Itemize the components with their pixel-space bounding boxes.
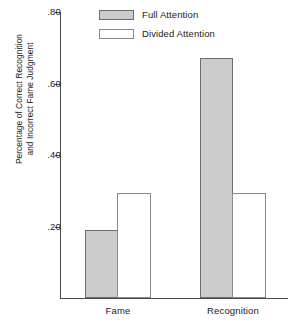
- legend-swatch-full-attention: [99, 10, 134, 20]
- x-tick-label-recognition: Recognition: [178, 305, 288, 316]
- bar-recognition-divided-attention: [232, 193, 266, 298]
- x-tick-label-fame: Fame: [63, 305, 173, 316]
- y-tick-label-60: .60: [9, 79, 61, 89]
- y-axis-label-line-2: and Incorrect Fame Judgment: [25, 0, 36, 199]
- bar-fame-full-attention: [85, 230, 118, 298]
- bar-chart: Percentage of Correct Recognition and In…: [0, 0, 297, 325]
- y-tick-label-40: .40: [9, 150, 61, 160]
- legend-label-divided-attention: Divided Attention: [142, 29, 215, 39]
- y-tick-label-20: .20: [9, 222, 61, 232]
- legend-label-full-attention: Full Attention: [142, 10, 198, 20]
- legend-item-full-attention: Full Attention: [99, 8, 215, 22]
- legend: Full Attention Divided Attention: [99, 8, 215, 46]
- bar-fame-divided-attention: [117, 193, 151, 298]
- y-tick-label-80: .80: [9, 7, 61, 17]
- legend-item-divided-attention: Divided Attention: [99, 27, 215, 41]
- bar-recognition-full-attention: [200, 58, 233, 298]
- y-axis-label: Percentage of Correct Recognition and In…: [14, 0, 36, 199]
- legend-swatch-divided-attention: [99, 29, 134, 39]
- y-axis-label-line-1: Percentage of Correct Recognition: [14, 34, 24, 164]
- plot-area: [61, 12, 288, 298]
- x-axis-spine: [60, 298, 288, 299]
